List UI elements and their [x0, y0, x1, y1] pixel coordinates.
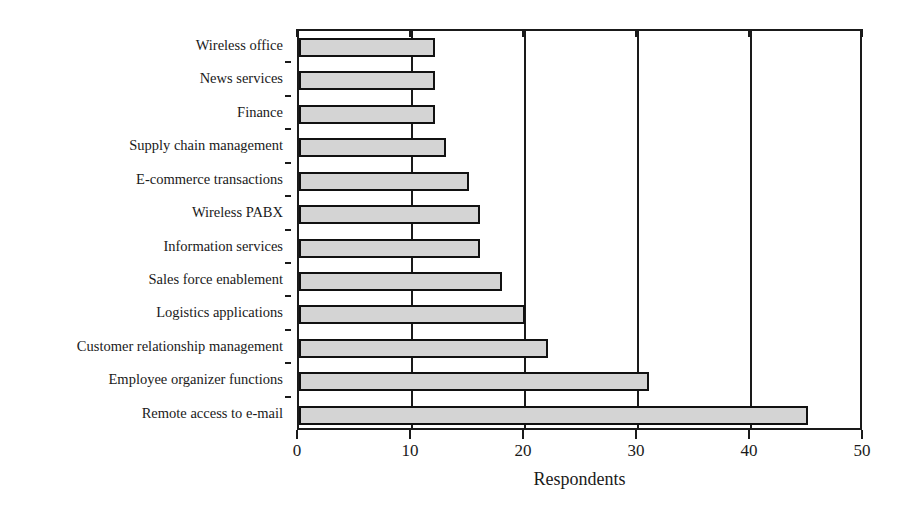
category-tick: [285, 61, 291, 63]
bar: [299, 339, 548, 358]
bar: [299, 105, 435, 124]
bar-row: [299, 31, 860, 64]
x-tick-top-0: [296, 29, 298, 37]
bar: [299, 138, 446, 157]
category-label: Customer relationship management: [77, 330, 283, 363]
bar: [299, 272, 502, 291]
category-tick: [285, 329, 291, 331]
category-tick: [285, 162, 291, 164]
bar-row: [299, 198, 860, 231]
bar-row: [299, 64, 860, 97]
bar-chart: Wireless officeNews servicesFinanceSuppl…: [0, 0, 907, 509]
category-tick: [285, 295, 291, 297]
x-tick-0: [296, 430, 298, 439]
bar: [299, 71, 435, 90]
plot-area: [297, 29, 862, 430]
category-label: Employee organizer functions: [109, 363, 283, 396]
x-axis-title: Respondents: [297, 469, 862, 490]
bar: [299, 38, 435, 57]
x-tick-40: [748, 430, 750, 439]
bar-row: [299, 365, 860, 398]
x-tick-20: [522, 430, 524, 439]
x-tick-10: [409, 430, 411, 439]
bar-row: [299, 232, 860, 265]
bar: [299, 239, 480, 258]
bar-row: [299, 165, 860, 198]
category-label: Wireless PABX: [192, 196, 283, 229]
bar: [299, 372, 649, 391]
bars-layer: [299, 31, 860, 428]
category-tick: [285, 396, 291, 398]
bar-row: [299, 265, 860, 298]
category-label: Logistics applications: [156, 296, 283, 329]
category-label: Wireless office: [196, 29, 283, 62]
x-tick-top-10: [409, 29, 411, 37]
bar-row: [299, 98, 860, 131]
category-tick: [285, 262, 291, 264]
x-tick-label: 20: [515, 441, 532, 461]
category-label: Supply chain management: [129, 129, 283, 162]
category-tick: [285, 128, 291, 130]
category-tick: [285, 195, 291, 197]
x-tick-label: 50: [854, 441, 871, 461]
bar-row: [299, 131, 860, 164]
x-tick-top-30: [635, 29, 637, 37]
category-tick: [285, 362, 291, 364]
bar: [299, 172, 469, 191]
bar-row: [299, 332, 860, 365]
x-tick-label: 10: [402, 441, 419, 461]
category-label: E-commerce transactions: [136, 163, 283, 196]
x-tick-label: 30: [628, 441, 645, 461]
x-tick-top-50: [861, 29, 863, 37]
category-tick: [285, 229, 291, 231]
x-tick-30: [635, 430, 637, 439]
bar-row: [299, 298, 860, 331]
category-axis-labels: Wireless officeNews servicesFinanceSuppl…: [0, 29, 291, 430]
category-label: Information services: [163, 230, 283, 263]
category-tick: [285, 95, 291, 97]
bar: [299, 305, 525, 324]
x-tick-label: 40: [741, 441, 758, 461]
category-label: Sales force enablement: [149, 263, 283, 296]
bar-row: [299, 399, 860, 432]
category-label: Remote access to e-mail: [142, 397, 283, 430]
bar: [299, 205, 480, 224]
x-tick-50: [861, 430, 863, 439]
x-tick-top-40: [748, 29, 750, 37]
category-label: Finance: [237, 96, 283, 129]
category-label: News services: [200, 62, 283, 95]
bar: [299, 406, 808, 425]
x-tick-label: 0: [293, 441, 302, 461]
x-tick-top-20: [522, 29, 524, 37]
